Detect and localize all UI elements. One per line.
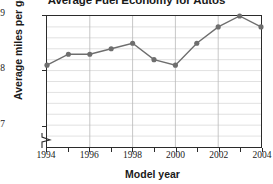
x-tick-mark — [132, 148, 133, 152]
data-point — [151, 57, 156, 62]
data-point — [216, 24, 221, 29]
x-tick-label: 2004 — [242, 150, 273, 160]
data-point — [173, 63, 178, 68]
data-point — [44, 63, 49, 68]
y-tick-mark — [42, 15, 46, 16]
data-point — [130, 41, 135, 46]
x-tick-mark — [197, 148, 198, 152]
axis-break-icon — [40, 132, 54, 150]
data-point — [258, 24, 263, 29]
y-axis-title: Average miles per gallon — [12, 0, 24, 108]
x-tick-mark — [219, 148, 220, 152]
x-tick-mark — [68, 148, 69, 152]
y-tick-label: 27 — [0, 119, 5, 129]
data-point — [87, 52, 92, 57]
x-tick-mark — [240, 148, 241, 152]
y-tick-mark — [42, 70, 46, 71]
data-point — [237, 13, 242, 18]
data-series-line — [47, 16, 261, 147]
x-tick-mark — [176, 148, 177, 152]
x-tick-mark — [262, 148, 263, 152]
x-tick-mark — [46, 148, 47, 152]
y-tick-label: 28 — [0, 63, 5, 73]
x-tick-mark — [89, 148, 90, 152]
chart-figure: Average Fuel Economy for Autos Average m… — [0, 0, 273, 184]
chart-title: Average Fuel Economy for Autos — [0, 0, 273, 6]
x-tick-mark — [154, 148, 155, 152]
x-tick-mark — [111, 148, 112, 152]
data-point — [66, 52, 71, 57]
data-point — [194, 41, 199, 46]
plot-area — [46, 15, 262, 148]
data-point — [109, 46, 114, 51]
y-tick-label: 29 — [0, 8, 5, 18]
x-axis-title: Model year — [40, 168, 265, 180]
y-tick-mark — [42, 126, 46, 127]
